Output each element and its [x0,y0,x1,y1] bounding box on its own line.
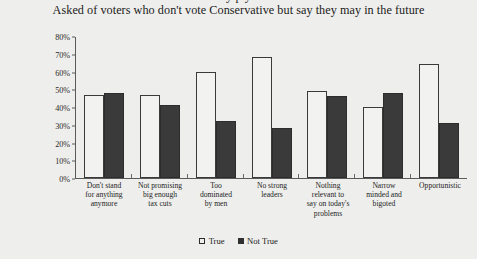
bar-groups [76,37,467,178]
category-label: Not promisingbig enoughtax cuts [132,181,188,218]
x-axis-line [75,178,467,179]
category-label-line: tax cuts [133,199,187,208]
category-label-line: Too [189,181,243,190]
category-label-line: say on today's [301,199,355,208]
chart-legend: TrueNot True [0,236,477,246]
y-axis-tick-mark [72,108,75,109]
bar-not-true [272,128,292,178]
category-label: No strongleaders [244,181,300,218]
category-label-line: Nothing [301,181,355,190]
bar-group [355,37,411,178]
category-label-line: No strong [245,181,299,190]
bar-group [244,37,300,178]
y-axis-tick-mark [72,72,75,73]
category-label-line: Narrow [357,181,411,190]
bar-not-true [439,123,459,178]
category-label-line: Don't stand [77,181,131,190]
legend-item[interactable]: True [199,236,224,246]
legend-item[interactable]: Not True [238,236,278,246]
open-square-icon [199,238,205,244]
category-label: Opportunistic [412,181,468,218]
category-label-line: dominated [189,190,243,199]
category-label-line: big enough [133,190,187,199]
bar-group [299,37,355,178]
plot-area: 0%10%20%30%40%50%60%70%80% [75,37,467,179]
legend-item-label: Not True [247,236,278,246]
category-label-line: bigoted [357,199,411,208]
bar-true [84,95,104,178]
category-label-line: by men [189,199,243,208]
bar-true [307,91,327,178]
legend-item-label: True [209,236,225,246]
chart-page: y p y Asked of voters who don't vote Con… [0,0,477,259]
chart-subtitle: Asked of voters who don't vote Conservat… [0,3,477,18]
category-label: Don't standfor anythinganymore [76,181,132,218]
category-label-line: problems [301,209,355,218]
y-axis-tick-mark [72,90,75,91]
y-axis-tick-mark [72,143,75,144]
y-axis-tick-mark [72,54,75,55]
category-label-line: relevant to [301,190,355,199]
bar-group [411,37,467,178]
bar-not-true [216,121,236,178]
category-label-line: Opportunistic [413,181,467,190]
bar-group [188,37,244,178]
bar-true [196,72,216,179]
bar-true [140,95,160,178]
bar-not-true [327,96,347,178]
category-label-line: leaders [245,190,299,199]
y-axis-tick-mark [72,179,75,180]
bar-true [363,107,383,178]
category-label: Nothingrelevant tosay on today'sproblems [300,181,356,218]
category-label-line: Not promising [133,181,187,190]
bar-group [132,37,188,178]
bar-true [252,57,272,178]
bar-not-true [383,93,403,178]
filled-square-icon [238,238,244,244]
category-label-line: anymore [77,199,131,208]
category-label-line: for anything [77,190,131,199]
bar-not-true [104,93,124,178]
category-label-line: minded and [357,190,411,199]
x-axis-category-labels: Don't standfor anythinganymoreNot promis… [76,181,468,218]
bar-group [76,37,132,178]
y-axis-tick-mark [72,37,75,38]
category-label: Narrowminded andbigoted [356,181,412,218]
y-axis-tick-mark [72,161,75,162]
bar-true [419,64,439,178]
y-axis-tick-mark [72,125,75,126]
category-label: Toodominatedby men [188,181,244,218]
bar-not-true [160,105,180,178]
